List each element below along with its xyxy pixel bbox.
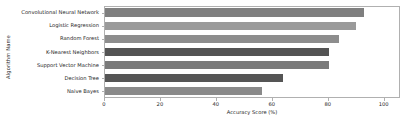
y-tick-mark-2 [102, 39, 105, 40]
y-tick-label-1: Logistic Regression [49, 22, 99, 29]
y-axis-title: Algorithm Name [1, 10, 15, 105]
bar-rect [105, 74, 283, 82]
y-tick-label-2: Random Forest [60, 35, 99, 42]
bar-random-forest [105, 35, 401, 43]
y-tick-label-0: Convolutional Neural Network [21, 9, 99, 16]
x-tick-label-3: 60 [262, 101, 282, 108]
x-tick-label-4: 80 [318, 101, 338, 108]
y-tick-mark-6 [102, 91, 105, 92]
bar-rect [105, 8, 364, 16]
bar-chart-figure: Algorithm Name Convolutional Neural Netw… [0, 0, 411, 117]
bar-convolutional-neural-network [105, 8, 401, 16]
x-tick-label-2: 40 [206, 101, 226, 108]
y-tick-mark-0 [102, 13, 105, 14]
bar-rect [105, 61, 329, 69]
bar-logistic-regression [105, 22, 401, 30]
x-tick-label-0: 0 [94, 101, 114, 108]
x-tick-label-5: 100 [374, 101, 394, 108]
axis-spine-top [104, 6, 400, 7]
bar-rect [105, 87, 262, 95]
y-tick-mark-3 [102, 52, 105, 53]
axis-spine-bottom [104, 97, 400, 98]
y-tick-mark-4 [102, 65, 105, 66]
y-tick-mark-1 [102, 26, 105, 27]
x-tick-label-1: 20 [150, 101, 170, 108]
bar-rect [105, 35, 339, 43]
y-tick-mark-5 [102, 78, 105, 79]
y-tick-label-4: Support Vector Machine [37, 62, 99, 69]
bar-support-vector-machine [105, 61, 401, 69]
x-axis-title: Accuracy Score (%) [104, 109, 400, 116]
plot-area [104, 6, 400, 98]
y-tick-label-5: Decision Tree [64, 75, 99, 82]
bar-k-nearest-neighbors [105, 48, 401, 56]
bar-decision-tree [105, 74, 401, 82]
y-tick-label-3: K-Nearest Neighbors [46, 49, 99, 56]
bar-rect [105, 48, 329, 56]
bar-naive-bayes [105, 87, 401, 95]
y-tick-label-6: Naive Bayes [67, 88, 99, 95]
bar-rect [105, 22, 356, 30]
